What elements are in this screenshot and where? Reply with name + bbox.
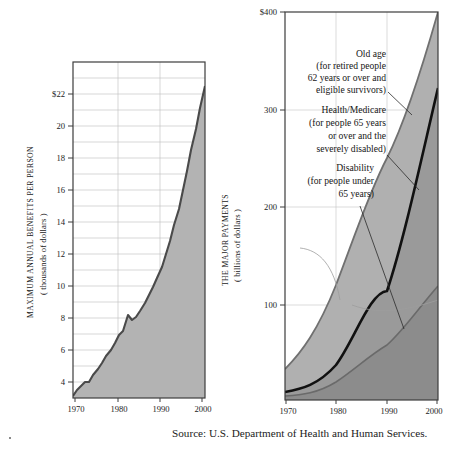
annotation-health-line-2: or over and the — [328, 130, 386, 141]
right-chart-ytick-marks — [280, 12, 285, 305]
annotation-old-age-line-3: eligible survivors) — [316, 84, 386, 96]
left-chart-ytick-label-14: 14 — [56, 217, 65, 227]
right-chart-ytick-label-100: 100 — [264, 300, 277, 310]
left-chart-ytick-label-4: 4 — [61, 377, 66, 387]
left-chart-ytick-label-10: 10 — [56, 281, 65, 291]
left-chart-ytick-label-22: $22 — [52, 89, 65, 99]
left-chart-xtick-label-2000: 2000 — [194, 404, 211, 414]
right-chart-xtick-label-1990: 1990 — [380, 406, 397, 416]
left-chart-xtick-label-1980: 1980 — [110, 404, 127, 414]
leader-line-old-age — [388, 92, 412, 115]
annotation-old-age-line-2: 62 years or over and — [308, 72, 387, 83]
annotation-old-age-line-1: (for retired people — [316, 60, 386, 72]
left-chart: $22 20 18 16 14 12 10 8 6 4 1970 1980 19… — [26, 62, 212, 414]
right-chart-ytick-label-200: 200 — [264, 202, 277, 212]
annotation-disability-line-1: (for people under — [307, 175, 374, 187]
left-chart-ytick-label-18: 18 — [56, 153, 65, 163]
annotation-health-line-0: Health/Medicare — [322, 104, 386, 115]
annotation-disability-line-0: Disability — [336, 162, 374, 173]
right-chart: $400 300 200 100 1970 1980 1990 2000 THE… — [221, 7, 450, 416]
charts-svg: $22 20 18 16 14 12 10 8 6 4 1970 1980 19… — [0, 0, 460, 453]
right-chart-ylabel: THE MAJOR PAYMENTS — [221, 194, 230, 286]
left-chart-ylabel-sub: ( thousands of dollars ) — [38, 213, 48, 295]
annotation-disability-line-2: 65 years) — [339, 188, 374, 200]
annotation-health-medicare: Health/Medicare (for people 65 years or … — [309, 104, 386, 155]
left-chart-ytick-label-6: 6 — [61, 345, 66, 355]
right-chart-ylabel-sub: ( billions of dollars ) — [232, 209, 242, 282]
left-chart-ylabel: MAXIMUM ANNUAL BENEFITS PER PERSON — [26, 146, 35, 318]
annotation-health-line-3: severely disabled) — [316, 143, 386, 155]
left-chart-ytick-label-16: 16 — [56, 185, 65, 195]
figure-root: $22 20 18 16 14 12 10 8 6 4 1970 1980 19… — [0, 0, 460, 453]
left-chart-area — [73, 86, 205, 398]
right-chart-xtick-label-1980: 1980 — [329, 406, 346, 416]
right-chart-xtick-label-2000: 2000 — [425, 406, 442, 416]
annotation-old-age-line-0: Old age — [356, 48, 386, 59]
left-chart-ytick-label-20: 20 — [56, 121, 65, 131]
source-note: Source: U.S. Department of Health and Hu… — [172, 427, 427, 439]
right-chart-ytick-label-300: 300 — [264, 105, 277, 115]
right-chart-xtick-label-1970: 1970 — [279, 406, 296, 416]
left-chart-ytick-label-12: 12 — [56, 249, 65, 259]
page-corner-mark — [9, 437, 11, 439]
annotation-disability: Disability (for people under 65 years) — [307, 162, 374, 200]
annotation-old-age: Old age (for retired people 62 years or … — [308, 48, 387, 96]
left-chart-xtick-label-1970: 1970 — [67, 404, 84, 414]
annotation-health-line-1: (for people 65 years — [309, 117, 386, 129]
left-chart-xtick-label-1990: 1990 — [152, 404, 169, 414]
left-chart-ytick-label-8: 8 — [61, 313, 65, 323]
right-chart-ytick-label-400: $400 — [260, 7, 277, 17]
left-chart-ytick-marks — [68, 94, 73, 382]
